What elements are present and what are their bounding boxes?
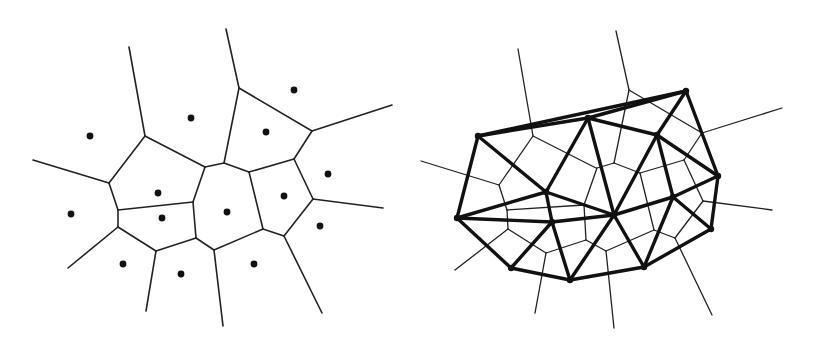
voronoi-edge (33, 160, 109, 183)
delaunay-edge (546, 118, 588, 192)
site-point (120, 261, 127, 268)
voronoi-edge (214, 250, 223, 326)
site-point (251, 261, 258, 268)
voronoi-edge (313, 199, 383, 208)
site-point (224, 209, 231, 216)
voronoi-edge (675, 238, 712, 315)
voronoi-edge (616, 31, 629, 90)
voronoi-edge (533, 136, 596, 168)
voronoi-edge (109, 136, 145, 183)
voronoi-edge (294, 131, 312, 159)
site-point (325, 171, 332, 178)
site-point (178, 271, 185, 278)
delaunay-edge (457, 192, 546, 218)
voronoi-edge (224, 88, 239, 163)
voronoi-edge (196, 238, 214, 250)
delaunay-edge (552, 222, 570, 280)
delaunay-edge (673, 176, 718, 197)
voronoi-edge (118, 227, 156, 251)
delaunay-edge (614, 215, 644, 267)
site-point (159, 215, 166, 222)
voronoi-edge (312, 105, 392, 131)
delaunay-node (670, 194, 676, 200)
voronoi-edge (118, 202, 193, 210)
voronoi-edge (294, 159, 313, 199)
delaunay-edge (511, 268, 570, 280)
site-point (188, 115, 195, 122)
voronoi-edge (546, 240, 586, 253)
voronoi-edge (421, 161, 499, 185)
delaunay-node (475, 133, 481, 139)
voronoi-edge (284, 199, 313, 236)
voronoi-edge (193, 167, 205, 202)
delaunay-edge (457, 218, 511, 268)
voronoi-edge (584, 205, 586, 240)
voronoi-edges-overlay (421, 31, 782, 328)
delaunay-node (543, 189, 549, 195)
site-point (317, 223, 324, 230)
delaunay-node (508, 265, 514, 271)
voronoi-edge (284, 236, 322, 313)
delaunay-node (611, 212, 617, 218)
delaunay-edge (457, 218, 552, 222)
voronoi-edge (193, 202, 196, 238)
voronoi-edge (145, 136, 205, 167)
delaunay-node (549, 219, 555, 225)
delaunay-node (567, 277, 573, 283)
site-point (291, 87, 298, 94)
site-point (281, 193, 288, 200)
delaunay-edge (552, 215, 614, 222)
delaunay-node (454, 215, 460, 221)
voronoi-edge (263, 229, 284, 236)
voronoi-delaunay-panel (421, 31, 782, 328)
voronoi-edge (156, 238, 196, 251)
voronoi-edge (68, 227, 118, 268)
delaunay-node (715, 173, 721, 179)
delaunay-edge (511, 222, 552, 268)
voronoi-edge (239, 88, 312, 131)
voronoi-edges (33, 29, 392, 326)
voronoi-edge (584, 168, 597, 205)
voronoi-edge (109, 183, 118, 210)
delaunay-node (585, 115, 591, 121)
voronoi-edge (129, 47, 145, 136)
voronoi-edge (249, 172, 263, 229)
delaunay-node (708, 226, 714, 232)
voronoi-edge (226, 29, 239, 88)
delaunay-edge (546, 192, 614, 215)
site-point (263, 129, 270, 136)
voronoi-edge (224, 163, 249, 172)
voronoi-edge (535, 253, 546, 313)
voronoi-edge (455, 229, 508, 270)
delaunay-edge (478, 136, 546, 192)
voronoi-edge (205, 163, 224, 167)
delaunay-edge (570, 267, 644, 280)
voronoi-edge (640, 173, 654, 230)
delaunay-node (654, 132, 660, 138)
diagram-canvas (0, 0, 813, 348)
voronoi-edge (146, 251, 156, 311)
delaunay-node (641, 264, 647, 270)
voronoi-edge (684, 160, 703, 201)
site-point (87, 133, 94, 140)
voronoi-edge (640, 160, 684, 173)
delaunay-node (683, 88, 689, 94)
site-point (68, 211, 75, 218)
voronoi-edge (606, 251, 614, 328)
voronoi-edge (702, 108, 782, 133)
voronoi-edge (507, 205, 584, 210)
voronoi-panel (33, 29, 392, 326)
site-point (155, 190, 162, 197)
voronoi-edge (249, 159, 294, 172)
voronoi-edge (214, 229, 263, 250)
